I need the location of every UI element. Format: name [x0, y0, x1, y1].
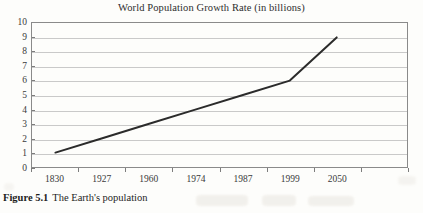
y-tick-label: 8 — [5, 46, 27, 56]
y-tick-label: 4 — [5, 105, 27, 115]
y-tick-label: 7 — [5, 61, 27, 71]
x-tick-label: 1999 — [281, 174, 300, 184]
x-tick-mark — [78, 168, 79, 172]
x-tick-label: 1960 — [139, 174, 158, 184]
y-tick-label: 9 — [5, 32, 27, 42]
y-tick-label: 3 — [5, 119, 27, 129]
paper-bleed-through — [196, 195, 248, 206]
paper-bleed-through — [398, 176, 416, 185]
y-axis-labels: 012345678910 — [0, 22, 27, 168]
x-tick-mark — [361, 168, 362, 172]
x-tick-label: 2050 — [328, 174, 347, 184]
y-tick-label: 0 — [5, 163, 27, 173]
y-tick-label: 10 — [5, 17, 27, 27]
x-tick-mark — [31, 168, 32, 172]
paper-bleed-through — [308, 196, 354, 206]
x-tick-mark — [408, 168, 409, 172]
y-tick-label: 5 — [5, 90, 27, 100]
x-tick-mark — [220, 168, 221, 172]
paper-bleed-through — [4, 183, 14, 191]
x-tick-label: 1974 — [186, 174, 205, 184]
figure-caption: Figure 5.1The Earth's population — [3, 192, 148, 203]
x-tick-label: 1987 — [234, 174, 253, 184]
x-tick-mark — [125, 168, 126, 172]
y-tick-label: 1 — [5, 148, 27, 158]
x-tick-mark — [172, 168, 173, 172]
paper-bleed-through — [262, 195, 296, 206]
x-tick-mark — [267, 168, 268, 172]
plot-area — [31, 22, 408, 168]
series-line-world-population — [32, 23, 407, 167]
figure-caption-text: The Earth's population — [52, 192, 147, 203]
y-tick-label: 2 — [5, 134, 27, 144]
y-tick-label: 6 — [5, 75, 27, 85]
chart-title: World Population Growth Rate (in billion… — [0, 2, 423, 13]
figure-page: World Population Growth Rate (in billion… — [0, 0, 423, 213]
x-tick-label: 1927 — [92, 174, 111, 184]
x-tick-mark — [314, 168, 315, 172]
figure-caption-label: Figure 5.1 — [3, 192, 48, 203]
x-tick-label: 1830 — [45, 174, 64, 184]
